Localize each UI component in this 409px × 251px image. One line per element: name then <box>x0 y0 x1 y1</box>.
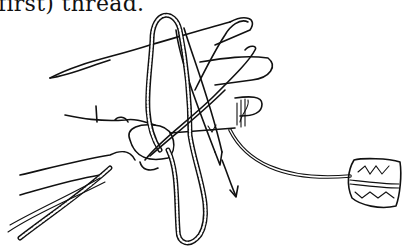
hand-netting-illustration <box>0 0 409 251</box>
arrow <box>222 160 238 197</box>
thread-spool <box>230 130 401 207</box>
